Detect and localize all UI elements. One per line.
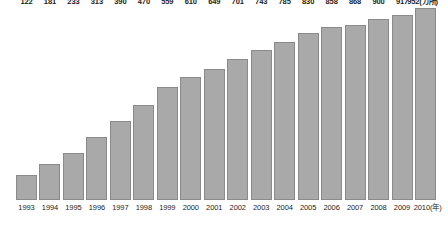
x-tick-label: 1998 — [136, 202, 152, 213]
bar-slot: 701 — [227, 8, 248, 200]
bar-chart: 1221812333133904705596106497017437858308… — [0, 0, 448, 241]
bar-slot: 313 — [86, 8, 107, 200]
x-tick: 2009 — [392, 202, 413, 213]
bar — [368, 19, 389, 201]
x-axis: 1993199419951996199719981999200020012002… — [16, 202, 436, 222]
bar-value-label: 470 — [138, 0, 150, 6]
x-tick: 2003 — [251, 202, 272, 213]
bar — [274, 42, 295, 200]
x-tick: 1993 — [16, 202, 37, 213]
bar-value-label: 610 — [185, 0, 197, 6]
bar-value-label: 313 — [91, 0, 103, 6]
x-tick-label: 2004 — [277, 202, 293, 213]
bar — [110, 121, 131, 200]
x-tick: 1996 — [86, 202, 107, 213]
bar-slot: 858 — [321, 8, 342, 200]
bar-value-label: 900 — [372, 0, 384, 6]
bar-slot: 785 — [274, 8, 295, 200]
bar-value-label: 743 — [255, 0, 267, 6]
x-tick: 1999 — [157, 202, 178, 213]
bar-slot: 952(カ所) — [415, 8, 436, 200]
bar-slot: 559 — [157, 8, 178, 200]
bar-slot: 610 — [180, 8, 201, 200]
x-tick-label: 2002 — [230, 202, 246, 213]
bar-value-label: 830 — [302, 0, 314, 6]
x-tick: 2005 — [298, 202, 319, 213]
x-tick-label: 2006 — [323, 202, 339, 213]
bar-slot: 470 — [133, 8, 154, 200]
bar — [157, 87, 178, 200]
bar — [180, 77, 201, 200]
x-tick-label: 1997 — [112, 202, 128, 213]
bar — [345, 25, 366, 200]
bar — [133, 105, 154, 200]
bar-slot: 181 — [39, 8, 60, 200]
x-tick: 2000 — [180, 202, 201, 213]
bar-value-label: 181 — [44, 0, 56, 6]
bar-slot: 900 — [368, 8, 389, 200]
bar — [251, 50, 272, 200]
x-tick-label: 2007 — [347, 202, 363, 213]
bar-slot: 868 — [345, 8, 366, 200]
x-tick: 1998 — [133, 202, 154, 213]
bar — [39, 164, 60, 201]
x-tick: 2002 — [227, 202, 248, 213]
bar — [321, 27, 342, 200]
x-tick: 1994 — [39, 202, 60, 213]
x-tick-label: 2010(年) — [414, 202, 442, 213]
bar-value-label: 233 — [67, 0, 79, 6]
bar — [415, 8, 436, 200]
x-tick: 1995 — [63, 202, 84, 213]
bar — [298, 33, 319, 200]
bar-slot: 830 — [298, 8, 319, 200]
bar — [63, 153, 84, 200]
bar-value-label: 649 — [208, 0, 220, 6]
bar — [204, 69, 225, 200]
x-tick-label: 2000 — [183, 202, 199, 213]
x-tick: 2004 — [274, 202, 295, 213]
x-tick-label: 1996 — [89, 202, 105, 213]
bar-value-label: 559 — [161, 0, 173, 6]
bar — [16, 175, 37, 200]
bar-value-label: 122 — [20, 0, 32, 6]
bar-slot: 743 — [251, 8, 272, 200]
x-tick-label: 2001 — [206, 202, 222, 213]
bar-slot: 390 — [110, 8, 131, 200]
x-tick-label: 1994 — [42, 202, 58, 213]
x-tick-label: 2009 — [394, 202, 410, 213]
bar-value-label: 868 — [349, 0, 361, 6]
x-tick: 2006 — [321, 202, 342, 213]
bar-value-label: 390 — [114, 0, 126, 6]
bar-value-label: 858 — [325, 0, 337, 6]
x-tick-label: 2008 — [370, 202, 386, 213]
bar — [392, 15, 413, 200]
x-tick-label: 2005 — [300, 202, 316, 213]
plot-area: 1221812333133904705596106497017437858308… — [16, 8, 436, 200]
bar-value-label: 785 — [279, 0, 291, 6]
bar-value-label: 952(カ所) — [407, 0, 438, 6]
bar-slot: 649 — [204, 8, 225, 200]
x-tick: 2008 — [368, 202, 389, 213]
bar-value-label: 701 — [232, 0, 244, 6]
bar-slot: 917 — [392, 8, 413, 200]
bar-slot: 122 — [16, 8, 37, 200]
x-tick-label: 1993 — [18, 202, 34, 213]
x-tick-label: 1995 — [65, 202, 81, 213]
x-tick: 2001 — [204, 202, 225, 213]
x-tick: 1997 — [110, 202, 131, 213]
x-tick-label: 2003 — [253, 202, 269, 213]
x-tick: 2007 — [345, 202, 366, 213]
bar — [86, 137, 107, 200]
x-tick-label: 1999 — [159, 202, 175, 213]
bar — [227, 59, 248, 200]
bar-slot: 233 — [63, 8, 84, 200]
